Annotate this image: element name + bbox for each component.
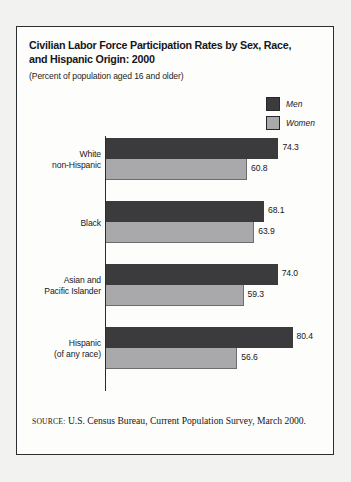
legend-item-men: Men <box>266 95 328 112</box>
bar-women <box>106 222 254 243</box>
bar-group: Black68.163.9 <box>29 201 321 245</box>
bar-value-women: 59.3 <box>248 289 264 299</box>
bar-women <box>106 348 237 369</box>
chart-plot-area: Whitenon-Hispanic74.360.8Black68.163.9As… <box>29 135 321 393</box>
legend-label-men: Men <box>286 99 302 109</box>
bar-men <box>106 138 278 159</box>
category-label: Black <box>0 218 101 229</box>
chart-legend: Men Women <box>266 95 328 133</box>
page-title: Civilian Labor Force Participation Rates… <box>29 38 303 66</box>
bar-women <box>106 285 244 306</box>
figure-frame: Civilian Labor Force Participation Rates… <box>16 26 334 455</box>
legend-swatch-men <box>266 97 280 111</box>
source-label: SOURCE: <box>32 417 65 426</box>
bar-value-men: 68.1 <box>268 205 284 215</box>
bar-group: Whitenon-Hispanic74.360.8 <box>29 138 321 182</box>
legend-label-women: Women <box>286 118 315 128</box>
category-label: Asian andPacific Islander <box>0 275 101 297</box>
bar-value-women: 56.6 <box>241 352 257 362</box>
source-text: U.S. Census Bureau, Current Population S… <box>65 415 306 426</box>
category-label: Hispanic(of any race) <box>0 338 101 360</box>
bar-value-men: 74.3 <box>282 142 298 152</box>
bar-value-women: 60.8 <box>251 163 267 173</box>
bar-group: Hispanic(of any race)80.456.6 <box>29 327 321 371</box>
legend-item-women: Women <box>266 114 328 131</box>
bar-men <box>106 264 278 285</box>
source-note: SOURCE: U.S. Census Bureau, Current Popu… <box>32 415 320 428</box>
bar-value-men: 74.0 <box>282 268 298 278</box>
legend-swatch-women <box>266 116 280 130</box>
chart-subtitle: (Percent of population aged 16 and older… <box>29 71 184 81</box>
bar-group: Asian andPacific Islander74.059.3 <box>29 264 321 308</box>
category-label: Whitenon-Hispanic <box>0 149 101 171</box>
bar-value-women: 63.9 <box>258 226 274 236</box>
bar-men <box>106 327 293 348</box>
bar-women <box>106 159 247 180</box>
bar-men <box>106 201 264 222</box>
bar-value-men: 80.4 <box>297 331 313 341</box>
